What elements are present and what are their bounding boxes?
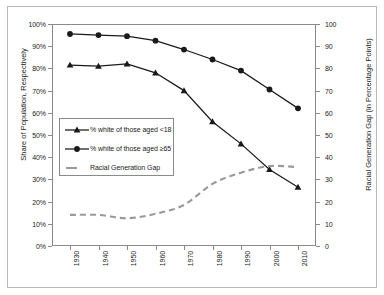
y-axis-right-tick — [316, 202, 320, 203]
y-axis-right-tick-label: 60 — [325, 109, 333, 116]
data-point-marker — [210, 57, 216, 63]
x-axis-tick-label: 1950 — [130, 251, 137, 266]
data-point-marker — [153, 38, 159, 44]
legend-swatch — [64, 142, 90, 156]
y-axis-left-tick-label: 80% — [32, 65, 46, 72]
x-axis-ticks — [52, 246, 316, 250]
chart-legend: % white of those aged <18% white of thos… — [59, 118, 174, 176]
y-axis-left-tick-label: 30% — [32, 176, 46, 183]
legend-item: Racial Generation Gap — [60, 158, 173, 177]
y-axis-right-tick-label: 10 — [325, 220, 333, 227]
y-axis-left-tick-label: 100% — [28, 21, 46, 28]
data-point-marker — [181, 47, 187, 53]
series-2 — [67, 31, 301, 111]
y-axis-right-tick-label: 20 — [325, 198, 333, 205]
y-axis-right-tick-label: 100 — [325, 21, 336, 28]
y-axis-right-tick — [316, 179, 320, 180]
y-axis-left-tick-label: 40% — [32, 154, 46, 161]
x-axis-tick-label: 1970 — [187, 251, 194, 266]
legend-label: Racial Generation Gap — [90, 164, 160, 171]
y-axis-right-tick — [316, 68, 320, 69]
data-point-marker — [181, 87, 188, 93]
legend-item: % white of those aged ≥65 — [60, 139, 173, 158]
y-axis-right-tick-label: 80 — [325, 65, 333, 72]
legend-swatch — [64, 123, 90, 137]
y-axis-right-tick-label: 30 — [325, 176, 333, 183]
x-axis-tick-label: 2000 — [273, 251, 280, 266]
x-axis-tick — [298, 246, 299, 250]
y-axis-right-tick — [316, 246, 320, 247]
y-axis-left-tick-label: 90% — [32, 43, 46, 50]
y-axis-left-labels: 0%10%20%30%40%50%60%70%80%90%100% — [14, 24, 49, 246]
data-point-marker — [238, 68, 244, 74]
y-axis-right-tick — [316, 224, 320, 225]
data-point-marker — [295, 105, 301, 111]
y-axis-right-tick — [316, 46, 320, 47]
y-axis-right-tick-label: 40 — [325, 154, 333, 161]
y-axis-left-tick-label: 10% — [32, 220, 46, 227]
y-axis-right-tick — [316, 157, 320, 158]
x-axis-tick-label: 1990 — [244, 251, 251, 266]
y-axis-left-tick-label: 20% — [32, 198, 46, 205]
legend-label: % white of those aged <18 — [90, 126, 171, 133]
legend-item: % white of those aged <18 — [60, 120, 173, 139]
x-axis-tick — [184, 246, 185, 250]
y-axis-right-labels: 0102030405060708090100 — [322, 24, 346, 246]
x-axis-tick — [99, 246, 100, 250]
y-axis-left-tick-label: 50% — [32, 132, 46, 139]
x-axis-tick-label: 1980 — [216, 251, 223, 266]
data-point-marker — [96, 32, 102, 38]
x-axis-tick-label: 2010 — [301, 251, 308, 266]
x-axis-tick — [213, 246, 214, 250]
y-axis-left-tick-label: 70% — [32, 87, 46, 94]
x-axis-tick — [270, 246, 271, 250]
data-point-marker — [295, 184, 302, 190]
y-axis-right-tick — [316, 113, 320, 114]
data-point-marker — [67, 31, 73, 37]
y-axis-right-tick-label: 0 — [325, 243, 329, 250]
legend-swatch — [64, 161, 90, 175]
legend-label: % white of those aged ≥65 — [90, 145, 171, 152]
y-axis-right-tick-label: 70 — [325, 87, 333, 94]
chart-figure: Share of Population, Respectively Racial… — [0, 0, 384, 295]
y-axis-right-tick — [316, 24, 320, 25]
y-axis-right-title: Racial Generation Gap (in Percentage Poi… — [364, 15, 373, 215]
y-axis-right-tick-label: 90 — [325, 43, 333, 50]
y-axis-right-tick — [316, 91, 320, 92]
x-axis-tick — [241, 246, 242, 250]
y-axis-right-ticks — [316, 24, 320, 246]
x-axis-tick — [70, 246, 71, 250]
data-point-marker — [124, 33, 130, 39]
y-axis-right-tick-label: 50 — [325, 132, 333, 139]
y-axis-right-tick — [316, 135, 320, 136]
x-axis-tick-label: 1930 — [73, 251, 80, 266]
y-axis-left-tick-label: 60% — [32, 109, 46, 116]
y-axis-left-tick-label: 0% — [36, 243, 46, 250]
series-line — [70, 34, 298, 108]
data-point-marker — [267, 87, 273, 93]
x-axis-tick-label: 1960 — [159, 251, 166, 266]
x-axis-tick-label: 1940 — [102, 251, 109, 266]
x-axis-labels: 193019401950196019701980199020002010 — [52, 251, 316, 281]
x-axis-tick — [156, 246, 157, 250]
x-axis-tick — [127, 246, 128, 250]
